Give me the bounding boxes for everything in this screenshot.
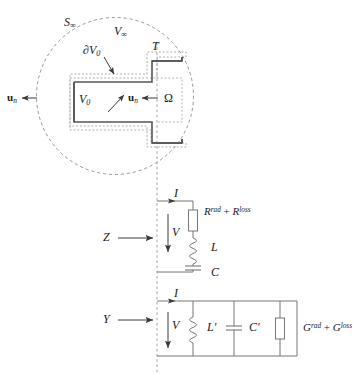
label-terminal-t: T xyxy=(152,40,159,52)
series-inductor-coil xyxy=(190,238,197,264)
series-resistor-box xyxy=(189,210,198,231)
parallel-resistor-box xyxy=(276,318,285,339)
label-s-infinity: S∞ xyxy=(64,16,76,30)
label-normal-vector-inner: un xyxy=(128,92,138,104)
boundary-pointer-arrow xyxy=(104,57,114,74)
label-series-resistor: Rrad + Rloss xyxy=(204,206,251,217)
label-parallel-current-i: I xyxy=(174,287,178,299)
label-boundary-dv0: ∂V0 xyxy=(83,44,100,58)
parallel-inductor-coil xyxy=(190,317,197,343)
normal-vector-arrow-diagonal xyxy=(108,95,124,112)
label-normal-vector-left: un xyxy=(7,92,17,104)
label-omega-region: Ω xyxy=(164,92,173,104)
label-admittance-y: Y xyxy=(103,313,110,325)
label-series-voltage-v: V xyxy=(172,226,179,238)
label-series-capacitor-c: C xyxy=(211,266,219,278)
label-volume-v0: V0 xyxy=(79,93,90,107)
figure-canvas xyxy=(0,0,361,374)
series-circuit-diagram xyxy=(118,198,201,272)
label-parallel-voltage-v: V xyxy=(172,319,179,331)
label-series-current-i: I xyxy=(174,187,178,199)
label-impedance-z: Z xyxy=(103,231,110,243)
label-parallel-inductor: L′ xyxy=(207,321,216,333)
label-parallel-capacitor: C′ xyxy=(249,321,260,333)
label-parallel-conductance: Grad + Gloss xyxy=(303,322,352,333)
label-series-inductor-l: L xyxy=(211,241,218,253)
label-v-infinity: V∞ xyxy=(114,25,127,39)
